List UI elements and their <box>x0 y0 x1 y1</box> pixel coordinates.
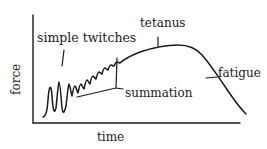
summation-label: summation <box>125 87 192 99</box>
x-axis-label: time <box>97 131 124 143</box>
fatigue-label: fatigue <box>218 67 261 79</box>
simple-twitches-label: simple twitches <box>37 32 136 45</box>
fatigue-pointer <box>206 77 217 78</box>
y-axis-label: force <box>10 64 22 95</box>
summation-pointer <box>77 58 123 97</box>
simple-twitches-pointer <box>62 50 64 66</box>
force-curve <box>43 45 246 117</box>
tetanus-label: tetanus <box>140 17 186 29</box>
